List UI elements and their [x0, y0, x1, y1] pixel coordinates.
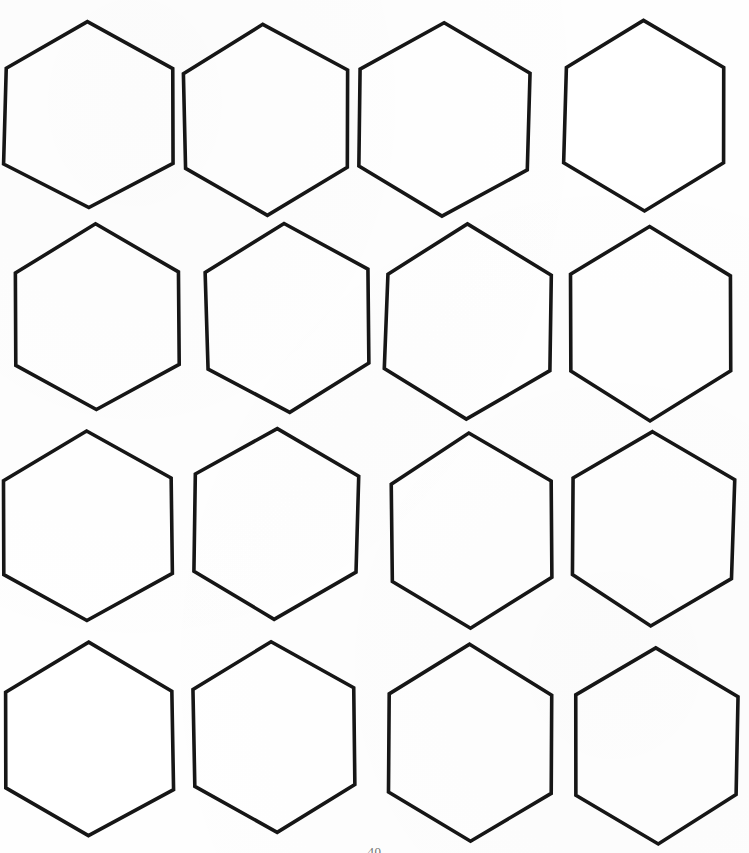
hexagon-outline — [6, 642, 174, 835]
hexagon-outline — [205, 224, 369, 413]
hexagon-outline — [15, 224, 179, 410]
hexagon-outline — [388, 644, 551, 841]
hexagon-outline — [391, 433, 552, 628]
hexagon-outline — [193, 642, 355, 833]
hexagon-outline — [194, 429, 359, 620]
hexagon-outline — [4, 22, 173, 208]
hexagon-outline — [572, 432, 734, 626]
page-number: 40 — [0, 845, 749, 853]
hexagon-outline — [576, 648, 738, 844]
hexagon-template-page: 40 — [0, 0, 749, 853]
hexagon-outline — [359, 23, 530, 216]
hexagon-grid — [0, 0, 749, 853]
hexagon-outline — [564, 20, 724, 211]
hexagon-outline — [571, 227, 731, 421]
hexagon-outline — [384, 224, 551, 419]
hexagon-outline — [183, 24, 347, 215]
hexagon-outline — [3, 431, 172, 621]
